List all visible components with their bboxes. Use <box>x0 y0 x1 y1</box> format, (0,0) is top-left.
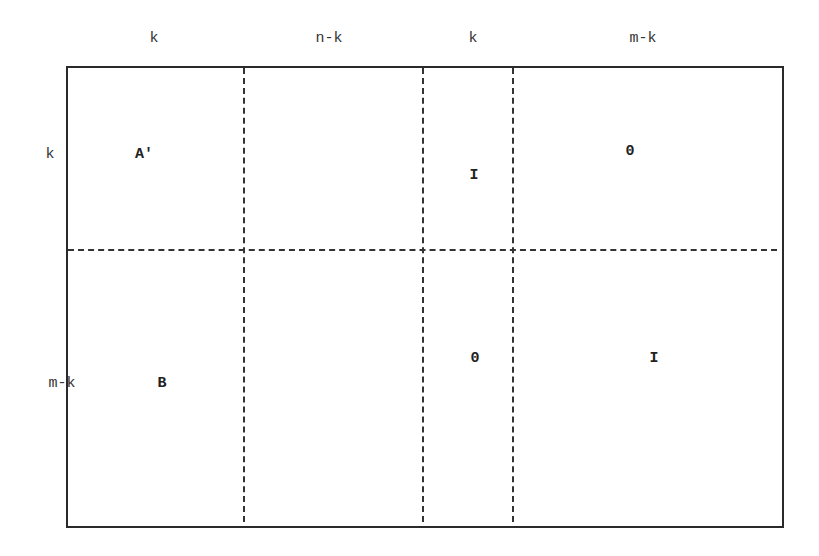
block-zero-bottom: 0 <box>470 351 479 367</box>
block-a-prime: A′ <box>135 147 153 163</box>
column-label-n-minus-k: n-k <box>315 31 342 47</box>
matrix-frame <box>66 66 784 528</box>
column-label-m-minus-k: m-k <box>629 31 656 47</box>
block-identity-top: I <box>469 168 478 184</box>
horizontal-divider <box>68 249 777 251</box>
column-label-k-1: k <box>149 31 158 47</box>
block-identity-bottom: I <box>649 351 658 367</box>
column-label-k-2: k <box>468 31 477 47</box>
vertical-divider-1 <box>243 68 245 522</box>
row-label-k: k <box>45 147 54 163</box>
block-b: B <box>157 376 166 392</box>
vertical-divider-2 <box>422 68 424 522</box>
block-zero-top: 0 <box>625 144 634 160</box>
vertical-divider-3 <box>512 68 514 522</box>
